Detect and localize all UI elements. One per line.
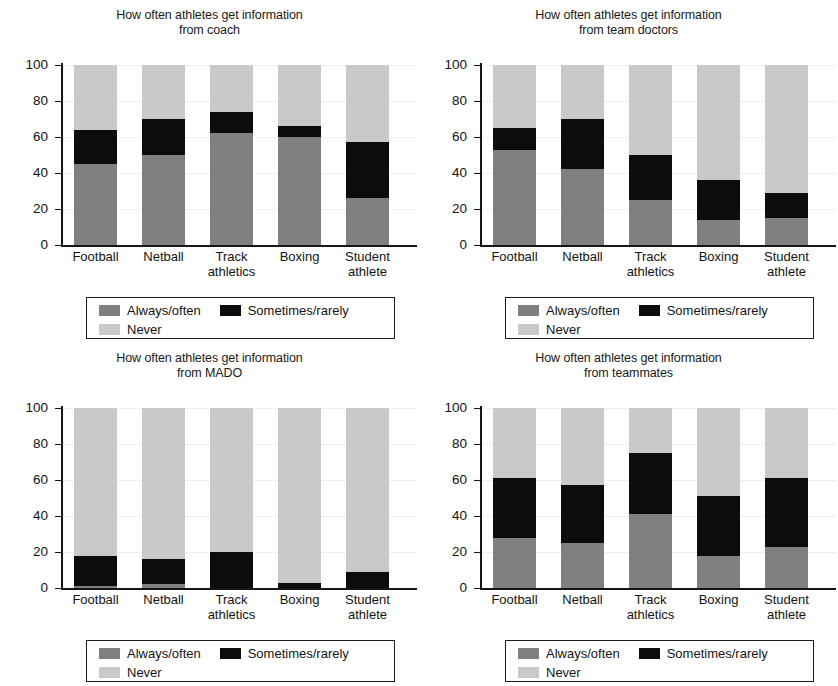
legend-swatch-never: [99, 667, 120, 678]
y-tick-label: 0: [14, 581, 48, 595]
y-tick-label: 100: [14, 58, 48, 72]
segment-always: [765, 218, 808, 245]
bar-netball: [142, 408, 185, 588]
y-tick-label: 20: [433, 202, 467, 216]
segment-sometimes: [629, 453, 672, 514]
legend-label-never: Never: [546, 323, 581, 336]
chart-panel-1: How often athletes get information from …: [0, 0, 419, 343]
x-axis-label-4: Boxing: [682, 593, 755, 608]
legend-swatch-never: [99, 324, 120, 335]
x-axis-label-2: Netball: [546, 250, 619, 265]
segment-always: [697, 220, 740, 245]
segment-always: [142, 584, 185, 588]
segment-sometimes: [142, 559, 185, 584]
legend-label-never: Never: [127, 323, 162, 336]
legend-swatch-always: [518, 305, 539, 316]
segment-always: [74, 586, 117, 588]
legend-row: Always/oftenSometimes/rarely: [87, 644, 394, 663]
legend-label-never: Never: [127, 666, 162, 679]
segment-sometimes: [142, 119, 185, 155]
bar-track-athletics: [210, 408, 253, 588]
legend-swatch-always: [518, 648, 539, 659]
y-tick-label: 80: [433, 437, 467, 451]
x-axis-label-3: Track athletics: [195, 593, 268, 622]
plot-area: [62, 65, 400, 245]
segment-always: [629, 200, 672, 245]
y-tick-label: 60: [14, 473, 48, 487]
x-axis-label-1: Football: [478, 250, 551, 265]
legend-swatch-sometimes: [639, 305, 660, 316]
chart-legend: Always/oftenSometimes/rarelyNever: [86, 297, 395, 339]
legend-label-always: Always/often: [127, 647, 201, 660]
x-axis-label-3: Track athletics: [195, 250, 268, 279]
y-tick-label: 100: [14, 401, 48, 415]
bar-football: [74, 65, 117, 245]
segment-sometimes: [561, 119, 604, 169]
y-tick-label: 100: [433, 58, 467, 72]
segment-sometimes: [210, 552, 253, 588]
segment-never: [629, 65, 672, 155]
segment-sometimes: [346, 572, 389, 588]
chart-legend: Always/oftenSometimes/rarelyNever: [86, 640, 395, 682]
segment-never: [493, 408, 536, 478]
chart-title: How often athletes get information from …: [419, 351, 838, 381]
y-tick-label: 40: [433, 166, 467, 180]
bar-student-athlete: [346, 65, 389, 245]
x-axis-line: [61, 588, 417, 590]
legend-item-never: Never: [518, 323, 581, 336]
plot-area: [62, 408, 400, 588]
x-axis-label-4: Boxing: [682, 250, 755, 265]
segment-always: [346, 198, 389, 245]
chart-title: How often athletes get information from …: [419, 8, 838, 38]
bar-netball: [561, 408, 604, 588]
legend-label-sometimes: Sometimes/rarely: [248, 647, 349, 660]
segment-never: [346, 65, 389, 142]
segment-sometimes: [74, 556, 117, 587]
legend-row: Always/oftenSometimes/rarely: [506, 301, 813, 320]
legend-label-always: Always/often: [546, 304, 620, 317]
legend-row: Always/oftenSometimes/rarely: [506, 644, 813, 663]
segment-sometimes: [278, 583, 321, 588]
plot-area: [481, 408, 819, 588]
bar-football: [493, 65, 536, 245]
x-axis-label-4: Boxing: [263, 593, 336, 608]
y-tick-label: 0: [433, 238, 467, 252]
segment-sometimes: [561, 485, 604, 543]
legend-item-always: Always/often: [518, 647, 620, 660]
bar-student-athlete: [765, 408, 808, 588]
legend-label-sometimes: Sometimes/rarely: [667, 304, 768, 317]
segment-never: [765, 408, 808, 478]
x-axis-line: [61, 245, 417, 247]
segment-never: [697, 408, 740, 496]
y-tick-label: 0: [433, 581, 467, 595]
y-tick-label: 100: [433, 401, 467, 415]
legend-swatch-never: [518, 667, 539, 678]
legend-swatch-always: [99, 305, 120, 316]
segment-sometimes: [210, 112, 253, 134]
segment-never: [74, 65, 117, 130]
y-tick-label: 60: [433, 473, 467, 487]
bar-netball: [142, 65, 185, 245]
y-tick-label: 0: [14, 238, 48, 252]
segment-sometimes: [278, 126, 321, 137]
bar-football: [74, 408, 117, 588]
segment-always: [697, 556, 740, 588]
segment-never: [629, 408, 672, 453]
segment-never: [142, 65, 185, 119]
legend-item-always: Always/often: [99, 647, 201, 660]
segment-never: [493, 65, 536, 128]
legend-label-always: Always/often: [546, 647, 620, 660]
segment-always: [629, 514, 672, 588]
legend-swatch-sometimes: [220, 305, 241, 316]
bar-boxing: [697, 408, 740, 588]
legend-row: Never: [87, 320, 394, 339]
legend-label-always: Always/often: [127, 304, 201, 317]
segment-sometimes: [629, 155, 672, 200]
segment-never: [210, 65, 253, 112]
segment-never: [278, 65, 321, 126]
legend-item-sometimes: Sometimes/rarely: [639, 304, 768, 317]
y-tick-label: 40: [14, 166, 48, 180]
segment-sometimes: [74, 130, 117, 164]
segment-always: [142, 155, 185, 245]
segment-always: [493, 538, 536, 588]
